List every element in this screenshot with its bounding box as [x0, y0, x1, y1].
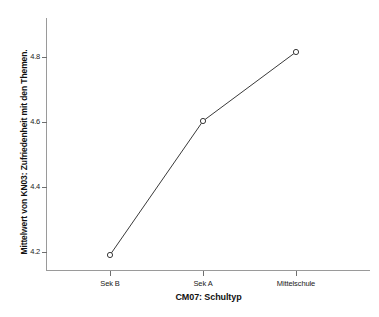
x-tick-mark: [203, 271, 204, 276]
x-axis-line: [46, 270, 370, 271]
data-point-marker: [200, 118, 205, 123]
y-tick-mark: [42, 252, 47, 253]
y-axis-line: [46, 18, 47, 270]
x-tick-mark: [110, 271, 111, 276]
data-point-marker: [107, 252, 112, 257]
data-point-marker: [293, 49, 298, 54]
y-tick-mark: [42, 187, 47, 188]
y-tick-label: 4.6: [14, 117, 40, 126]
y-tick-label: 4.8: [14, 52, 40, 61]
x-axis-title: CM07: Schultyp: [47, 292, 370, 302]
x-tick-label: Sek A: [158, 279, 248, 288]
series-line: [110, 52, 296, 255]
y-tick-mark: [42, 122, 47, 123]
line-chart: Mittelwert von KN03: Zufriedenheit mit d…: [0, 0, 379, 317]
x-tick-mark: [296, 271, 297, 276]
y-tick-mark: [42, 57, 47, 58]
y-tick-label: 4.4: [14, 182, 40, 191]
y-tick-label: 4.2: [14, 247, 40, 256]
x-tick-label: Sek B: [65, 279, 155, 288]
x-tick-label: Mittelschule: [251, 279, 341, 288]
series-markers: [107, 49, 298, 257]
